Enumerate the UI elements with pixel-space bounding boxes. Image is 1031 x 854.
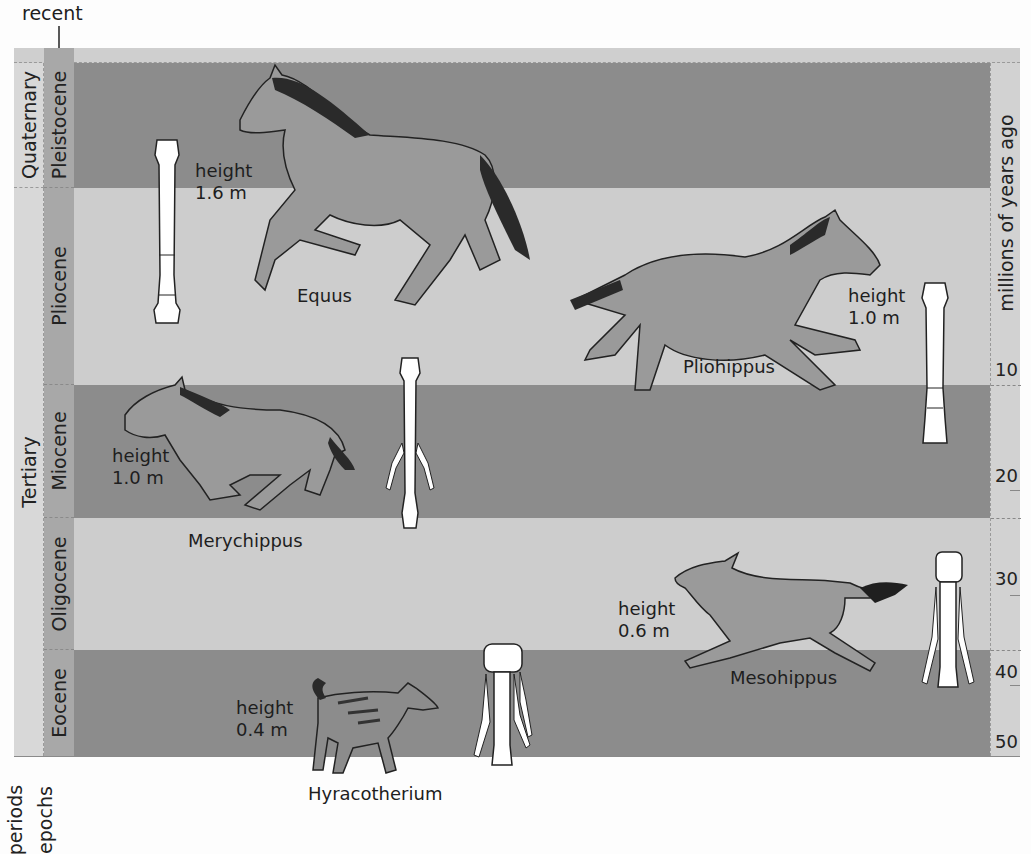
periods-caption: periods — [0, 790, 30, 850]
pliohippus-height: height1.0 m — [848, 285, 905, 329]
tick-30: 30 — [995, 568, 1018, 589]
tick-40: 40 — [995, 661, 1018, 682]
scale-divider — [991, 385, 1021, 386]
mesohippus-horse-illustration — [670, 553, 910, 678]
hyracotherium-illustration — [308, 678, 443, 778]
time-scale: millions of years ago 10 20 30 40 50 — [990, 63, 1020, 756]
equus-foot-bone-icon — [152, 135, 182, 325]
equus-height: height1.6 m — [195, 160, 252, 204]
tick-mark — [1010, 595, 1020, 596]
mesohippus-height: height0.6 m — [618, 598, 675, 642]
merychippus-label: Merychippus — [188, 530, 303, 551]
tick-mark — [1010, 490, 1020, 491]
scale-divider — [991, 650, 1021, 651]
epoch-label: Pleistocene — [48, 71, 70, 180]
hyracotherium-foot-bone-icon — [470, 640, 536, 770]
tick-mark — [1010, 685, 1020, 686]
hyracotherium-height: height0.4 m — [236, 697, 293, 741]
mesohippus-label: Mesohippus — [730, 667, 837, 688]
equus-horse-illustration — [230, 60, 530, 310]
hyracotherium-label: Hyracotherium — [308, 783, 442, 804]
recent-label: recent — [22, 2, 83, 24]
merychippus-foot-bone-icon — [382, 353, 438, 533]
scale-divider — [991, 518, 1021, 519]
merychippus-height: height1.0 m — [112, 445, 169, 489]
period-label: Quaternary — [18, 71, 40, 179]
epoch-miocene: Miocene — [44, 385, 74, 518]
recent-epoch-cell — [44, 48, 74, 63]
equus-label: Equus — [297, 285, 352, 306]
epoch-label: Eocene — [48, 668, 70, 738]
period-quaternary: Quaternary — [14, 63, 44, 188]
epoch-label: Oligocene — [48, 536, 70, 631]
epoch-eocene: Eocene — [44, 650, 74, 756]
pliohippus-label: Pliohippus — [683, 356, 775, 377]
epoch-pleistocene: Pleistocene — [44, 63, 74, 188]
period-tertiary: Tertiary — [14, 188, 44, 756]
period-label: Tertiary — [18, 436, 40, 507]
tick-50: 50 — [995, 731, 1018, 752]
epoch-pliocene: Pliocene — [44, 188, 74, 385]
mesohippus-foot-bone-icon — [918, 547, 978, 692]
tick-20: 20 — [995, 465, 1018, 486]
epoch-label: Miocene — [48, 411, 70, 490]
epoch-label: Pliocene — [48, 246, 70, 326]
pliohippus-foot-bone-icon — [920, 278, 950, 448]
tick-10: 10 — [995, 359, 1018, 380]
axis-title: millions of years ago — [995, 114, 1017, 311]
epoch-oligocene: Oligocene — [44, 518, 74, 650]
epochs-caption: epochs — [30, 790, 60, 850]
